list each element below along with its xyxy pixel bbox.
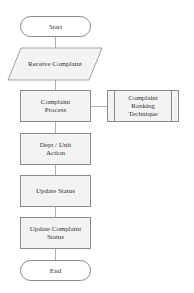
dept-unit-action-node: Dept / Unit Action [20, 133, 91, 165]
receive-complaint-node: Receive Complaint [22, 48, 88, 80]
complaint-ranking-label: Complaint Ranking Technique [118, 94, 168, 118]
connector-complaint-end [55, 249, 56, 260]
end-terminal: End [20, 260, 91, 281]
complaint-process-node: Complaint Process [20, 90, 91, 122]
update-complaint-status-label: Update Complaint Status [23, 225, 88, 241]
connector-status-complaint [55, 207, 56, 217]
connector-process-dept [55, 122, 56, 133]
connector-receive-process [55, 80, 56, 90]
connector-process-ranking [91, 106, 107, 107]
complaint-ranking-subprocess: Complaint Ranking Technique [107, 90, 179, 122]
start-terminal: Start [20, 16, 91, 37]
dept-unit-action-label: Dept / Unit Action [35, 141, 76, 157]
complaint-process-label: Complaint Process [33, 98, 78, 114]
update-status-label: Update Status [36, 187, 75, 195]
receive-complaint-label: Receive Complaint [28, 60, 82, 68]
update-complaint-status-node: Update Complaint Status [20, 217, 91, 249]
update-status-node: Update Status [20, 175, 91, 207]
start-label: Start [49, 23, 62, 31]
connector-dept-status [55, 165, 56, 175]
end-label: End [50, 267, 61, 275]
